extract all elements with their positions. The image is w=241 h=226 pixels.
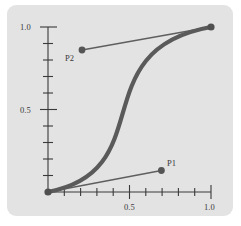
y-tick-label-05: 0.5	[20, 105, 31, 115]
start-point	[44, 188, 51, 195]
y-tick-label-1: 1.0	[20, 22, 31, 32]
x-tick-label-1: 1.0	[204, 202, 215, 212]
bezier-plot: 1.0 0.5 0.5 1.0 P1 P2	[0, 0, 241, 226]
x-tick-label-05: 0.5	[124, 202, 135, 212]
figure-caption-cropped	[6, 220, 238, 226]
p1-control-point[interactable]	[158, 167, 165, 174]
bezier-curve	[48, 27, 211, 192]
y-axis	[40, 27, 57, 192]
p2-control-point[interactable]	[79, 47, 86, 54]
p2-label: P2	[65, 53, 74, 63]
end-point	[207, 23, 214, 30]
p1-label: P1	[167, 158, 176, 168]
